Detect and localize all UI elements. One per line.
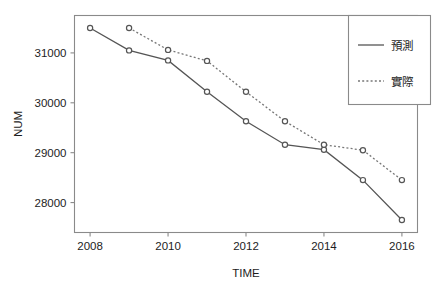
- data-point-2014: [321, 142, 326, 147]
- data-point-2012: [243, 89, 248, 94]
- y-tick-label-29000: 29000: [35, 147, 67, 159]
- data-point-2013: [282, 142, 287, 147]
- data-point-2009: [126, 25, 131, 30]
- legend-label-2: 實際: [391, 75, 414, 89]
- data-point-2010: [165, 47, 170, 52]
- y-tick-label-28000: 28000: [35, 197, 67, 209]
- x-tick-label-2010: 2010: [155, 240, 181, 252]
- x-tick-label-2008: 2008: [77, 240, 103, 252]
- y-axis-title: NUM: [12, 111, 24, 137]
- x-tick-label-2016: 2016: [389, 240, 415, 252]
- x-axis-title: TIME: [232, 267, 260, 279]
- x-axis-tick-labels: 20082010201220142016: [77, 240, 414, 252]
- line-chart: 28000290003000031000 2008201020122014201…: [0, 0, 439, 288]
- y-axis-tick-labels: 28000290003000031000: [35, 47, 67, 209]
- data-point-2016: [399, 178, 404, 183]
- data-point-2011: [204, 89, 209, 94]
- data-point-2012: [243, 119, 248, 124]
- y-tick-label-30000: 30000: [35, 97, 67, 109]
- y-axis-ticks: [71, 53, 75, 203]
- data-point-2011: [204, 58, 209, 63]
- data-point-2015: [360, 178, 365, 183]
- data-point-2015: [360, 148, 365, 153]
- legend-label-1: 預測: [391, 39, 413, 53]
- data-point-2016: [399, 217, 404, 222]
- legend-box: [349, 16, 431, 105]
- chart-container: 28000290003000031000 2008201020122014201…: [0, 0, 439, 288]
- x-tick-label-2012: 2012: [233, 240, 259, 252]
- data-point-2008: [87, 25, 92, 30]
- x-tick-label-2014: 2014: [311, 240, 337, 252]
- x-axis-ticks: [90, 233, 402, 237]
- chart-legend: 預測實際: [349, 16, 431, 105]
- data-point-2009: [126, 48, 131, 53]
- data-point-2013: [282, 119, 287, 124]
- y-tick-label-31000: 31000: [35, 47, 67, 59]
- data-point-2010: [165, 58, 170, 63]
